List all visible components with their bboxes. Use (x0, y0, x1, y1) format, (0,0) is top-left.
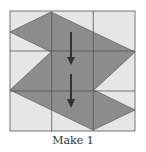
caption: Make 1 (0, 134, 146, 147)
tiling-diagram (0, 0, 146, 152)
